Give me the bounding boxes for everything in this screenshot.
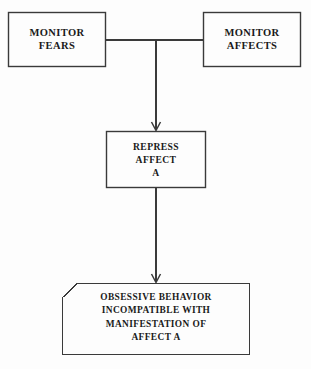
node-monitor-fears [9,13,106,67]
node-monitor-affects [204,13,301,67]
diagram-canvas [0,0,311,369]
node-obsessive-behavior [63,284,250,355]
node-repress-affect-a [107,132,206,188]
